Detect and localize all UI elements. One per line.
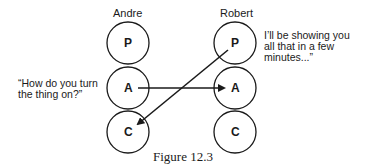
andre-parent-letter: P (124, 37, 132, 49)
robert-speech-line-3: minutes...” (264, 52, 350, 63)
figure-caption: Figure 12.3 (153, 149, 213, 165)
andre-speech: “How do you turn the thing on?” (18, 78, 98, 100)
robert-parent-letter: P (231, 37, 239, 49)
andre-speech-line-2: the thing on?” (18, 89, 98, 100)
robert-adult-letter: A (231, 82, 240, 94)
andre-child-letter: C (124, 126, 133, 138)
andre-adult-letter: A (124, 82, 133, 94)
robert-speech: I’ll be showing you all that in a few mi… (264, 30, 350, 63)
robert-child-letter: C (231, 126, 240, 138)
